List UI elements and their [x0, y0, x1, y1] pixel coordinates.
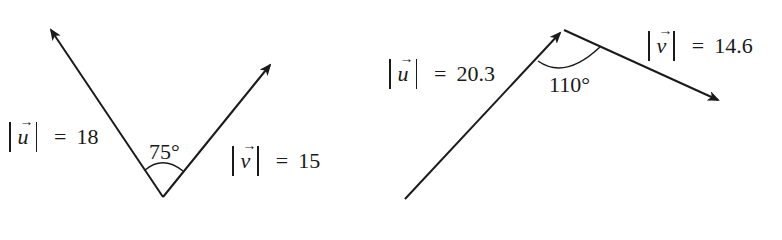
vector-u-2	[405, 33, 560, 199]
u-magnitude-label-1: →u=18	[2, 122, 98, 152]
v-magnitude-label-1: →v=15	[225, 146, 320, 176]
angle-label-1: 75°	[149, 139, 180, 165]
u-magnitude-label-2: →u=20.3	[382, 59, 495, 89]
vector-v-1	[163, 65, 270, 197]
angle-arc-2	[538, 47, 600, 68]
v-magnitude-label-2: →v=14.6	[641, 31, 753, 61]
angle-label-2: 110°	[549, 72, 590, 98]
vector-u-1	[51, 30, 163, 197]
